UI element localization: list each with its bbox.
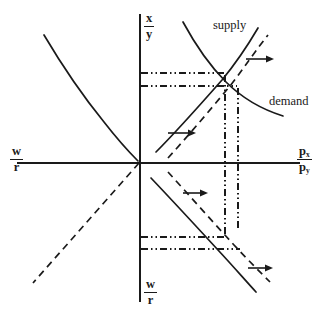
axis-label-vertical-top: x y bbox=[144, 12, 154, 40]
axis-label-vertical-bottom: w r bbox=[144, 278, 157, 306]
axis-label-horizontal-right: px py bbox=[297, 145, 312, 173]
demand-label: demand bbox=[269, 95, 309, 108]
supply-curve-shifted bbox=[168, 35, 268, 158]
output-ratio-curve bbox=[44, 35, 138, 161]
economics-four-quadrant-diagram: x y w r w r px py supply demand bbox=[0, 0, 325, 316]
shift-arrow-factorprice-upper bbox=[183, 190, 208, 197]
shift-arrow-supply-upper bbox=[246, 56, 274, 63]
shift-arrow-factorprice-lower bbox=[248, 265, 273, 272]
factor-price-line-shifted bbox=[168, 172, 270, 282]
axis-label-horizontal-left: w r bbox=[10, 145, 23, 173]
factor-price-line bbox=[151, 178, 256, 292]
origin-ray-dashed bbox=[33, 163, 139, 283]
diagram-canvas bbox=[0, 0, 325, 316]
supply-label: supply bbox=[213, 19, 246, 32]
